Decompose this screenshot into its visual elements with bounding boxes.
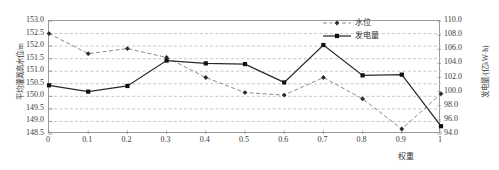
plot-svg — [49, 21, 441, 134]
y-axis-right-tick-label: 108.0 — [444, 29, 499, 38]
data-point-marker — [243, 62, 247, 66]
legend-key-icon — [322, 31, 352, 41]
x-axis-tick-label: 0.9 — [381, 135, 421, 144]
y-axis-left-tick-label: 150.5 — [0, 78, 44, 87]
y-axis-right-tick-label: 106.0 — [444, 43, 499, 52]
x-axis-tick-label: 0.6 — [263, 135, 303, 144]
data-point-marker — [321, 43, 325, 47]
data-point-marker — [86, 51, 91, 56]
data-point-marker — [47, 31, 52, 36]
y-axis-right-tick-label: 102.0 — [444, 72, 499, 81]
x-axis-tick-label: 0.7 — [302, 135, 342, 144]
legend-item-2: 发电量 — [322, 29, 379, 42]
y-axis-left-tick-label: 151.0 — [0, 65, 44, 74]
x-axis-tick-label: 0.5 — [224, 135, 264, 144]
data-point-marker — [125, 84, 129, 88]
legend-item-1: 水位 — [322, 16, 379, 29]
y-axis-right-tick-label: 104.0 — [444, 57, 499, 66]
data-point-marker — [400, 73, 404, 77]
data-point-marker — [204, 61, 208, 65]
data-point-marker — [125, 46, 130, 51]
series-line-1 — [49, 34, 441, 129]
legend-label: 水位 — [355, 16, 371, 29]
data-point-marker — [439, 124, 443, 128]
legend-key-icon — [322, 18, 352, 28]
data-point-marker — [282, 93, 287, 98]
y-axis-left-tick-label: 150.0 — [0, 90, 44, 99]
legend-label: 发电量 — [355, 29, 379, 42]
y-axis-right-tick-label: 100.0 — [444, 86, 499, 95]
data-point-marker — [86, 90, 90, 94]
chart-figure: 平均灌溉高水位/m 发电量/(亿kW·h) 权重 153.0152.5152.0… — [0, 0, 499, 170]
data-point-marker — [282, 80, 286, 84]
data-point-marker — [321, 75, 326, 80]
x-axis-tick-label: 0.4 — [185, 135, 225, 144]
y-axis-right-tick-label: 110.0 — [444, 15, 499, 24]
plot-area — [48, 20, 440, 133]
x-axis-tick-label: 0.8 — [342, 135, 382, 144]
data-point-marker — [203, 75, 208, 80]
y-axis-left-tick-label: 152.5 — [0, 28, 44, 37]
x-axis-tick-label: 0.3 — [146, 135, 186, 144]
y-axis-left-tick-label: 149.0 — [0, 115, 44, 124]
x-axis-tick-label: 1 — [420, 135, 460, 144]
y-axis-left-tick-label: 153.0 — [0, 15, 44, 24]
data-point-marker — [165, 58, 169, 62]
y-axis-left-tick-label: 151.5 — [0, 53, 44, 62]
data-point-marker — [47, 83, 51, 87]
x-axis-tick-label: 0 — [28, 135, 68, 144]
y-axis-right-tick-label: 96.0 — [444, 114, 499, 123]
data-point-marker — [243, 90, 248, 95]
x-axis-tick-label: 0.1 — [67, 135, 107, 144]
y-axis-right-tick-label: 98.0 — [444, 100, 499, 109]
x-axis-title: 权重 — [398, 150, 414, 161]
y-axis-left-tick-label: 152.0 — [0, 40, 44, 49]
data-point-marker — [361, 73, 365, 77]
y-axis-left-tick-label: 149.5 — [0, 103, 44, 112]
chart-legend: 水位发电量 — [322, 16, 379, 42]
x-axis-tick-label: 0.2 — [106, 135, 146, 144]
